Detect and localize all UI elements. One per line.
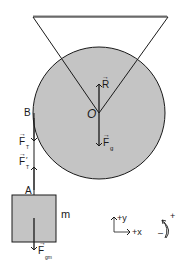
label-plus-y: +y	[117, 213, 127, 223]
label-o: O	[87, 107, 96, 121]
label-fg-arrow: →	[103, 131, 110, 138]
label-b: B	[24, 107, 31, 118]
label-r-arrow: →	[102, 73, 109, 80]
label-rot-plus: +	[170, 211, 175, 221]
label-ftp: F	[19, 156, 25, 167]
label-ft: F	[19, 136, 25, 147]
label-fgm-sub: gm	[45, 254, 52, 260]
label-fgm-arrow: →	[39, 239, 46, 246]
label-ftp-sub: T	[26, 164, 29, 170]
free-body-diagram: O R → F → g B F → T F → T ′ A m F → gm +…	[0, 0, 183, 278]
label-ft-arrow: →	[19, 130, 26, 137]
label-r: R	[102, 79, 109, 90]
label-m: m	[61, 208, 70, 220]
label-rot-minus: –	[158, 228, 163, 238]
label-fg-sub: g	[110, 145, 113, 151]
label-ftp-arrow: →	[19, 150, 26, 157]
label-fg: F	[103, 137, 109, 148]
label-plus-x: +x	[132, 227, 142, 237]
label-ft-sub: T	[26, 144, 29, 150]
label-a: A	[25, 185, 32, 196]
label-ftp-prime: ′	[26, 155, 28, 164]
label-fgm: F	[38, 245, 44, 256]
ceiling	[33, 15, 168, 17]
